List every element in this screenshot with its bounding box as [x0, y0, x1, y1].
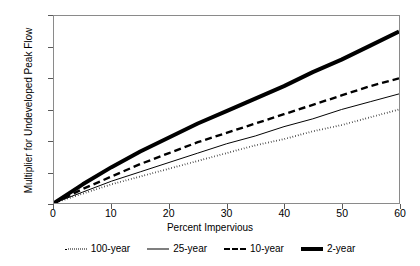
x-axis-tick-mark [169, 204, 170, 209]
legend-item: 100-year [65, 243, 130, 254]
x-axis-tick-mark [400, 204, 401, 209]
legend-swatch-icon [65, 245, 87, 253]
legend-item: 25-year [147, 243, 207, 254]
chart-legend: 100-year25-year10-year2-year [0, 243, 420, 254]
legend-swatch-icon [147, 245, 169, 253]
x-axis-tick-mark [284, 204, 285, 209]
x-axis-title: Percent Impervious [0, 222, 420, 233]
x-axis-tick-mark [53, 204, 54, 209]
x-axis-tick-label: 20 [149, 208, 189, 219]
x-axis-tick-label: 60 [380, 208, 420, 219]
plot-area [53, 15, 400, 204]
x-axis-tick-label: 30 [207, 208, 247, 219]
legend-item-label: 25-year [173, 243, 207, 254]
legend-item-label: 100-year [91, 243, 130, 254]
series-line [54, 78, 399, 203]
x-axis-tick-label: 50 [322, 208, 362, 219]
chart-figure: Multiplier for Undeveloped Peak Flow 1.0… [0, 0, 420, 266]
x-axis-tick-label: 40 [264, 208, 304, 219]
x-axis-tick-mark [227, 204, 228, 209]
x-axis-tick-mark [342, 204, 343, 209]
x-axis-tick-label: 10 [91, 208, 131, 219]
x-axis-tick-mark [111, 204, 112, 209]
legend-item: 10-year [224, 243, 284, 254]
legend-item: 2-year [301, 243, 355, 254]
x-axis-tick-label: 0 [33, 208, 73, 219]
legend-item-label: 2-year [327, 243, 355, 254]
series-line [54, 32, 399, 203]
legend-item-label: 10-year [250, 243, 284, 254]
legend-swatch-icon [224, 245, 246, 253]
legend-swatch-icon [301, 245, 323, 253]
y-axis-title: Multiplier for Undeveloped Peak Flow [23, 11, 34, 211]
series-canvas [54, 16, 399, 203]
series-line [54, 110, 399, 204]
